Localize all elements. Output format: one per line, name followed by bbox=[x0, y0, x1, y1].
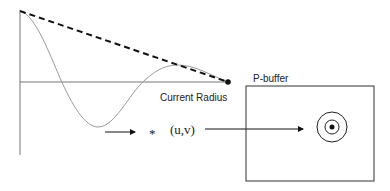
pbuffer-label: P-buffer bbox=[253, 73, 288, 84]
asterisk-symbol: * bbox=[149, 126, 156, 142]
center-dot bbox=[330, 125, 335, 130]
dashed-envelope-line bbox=[20, 11, 228, 82]
uv-label: (u,v) bbox=[170, 122, 195, 138]
pbuffer-box bbox=[246, 86, 374, 181]
current-radius-dot bbox=[225, 79, 231, 85]
current-radius-label: Current Radius bbox=[160, 92, 227, 103]
damped-curve bbox=[20, 11, 228, 127]
